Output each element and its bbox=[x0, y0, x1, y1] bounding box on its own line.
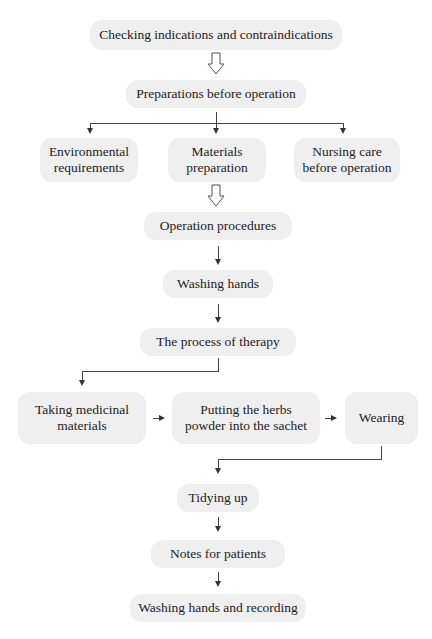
node-label: Environmental bbox=[49, 144, 129, 160]
node-process-of-therapy: The process of therapy bbox=[140, 328, 296, 356]
node-label: powder into the sachet bbox=[185, 418, 307, 434]
node-washing-hands: Washing hands bbox=[163, 270, 273, 298]
node-label: requirements bbox=[54, 160, 124, 176]
node-label: The process of therapy bbox=[156, 334, 279, 350]
connector bbox=[381, 446, 382, 460]
node-environmental-requirements: Environmental requirements bbox=[40, 138, 138, 182]
arrow-right-icon bbox=[331, 415, 337, 421]
node-label: Preparations before operation bbox=[136, 86, 296, 102]
arrow-down-icon bbox=[213, 128, 219, 134]
connector bbox=[218, 459, 382, 460]
connector bbox=[218, 358, 219, 372]
hollow-arrow-down-icon bbox=[207, 52, 225, 76]
arrow-down-icon bbox=[215, 259, 221, 265]
node-label: Nursing care bbox=[312, 144, 381, 160]
hollow-arrow-down-icon bbox=[207, 184, 225, 208]
node-label: Checking indications and contraindicatio… bbox=[99, 27, 333, 43]
node-label: Taking medicinal bbox=[35, 402, 129, 418]
arrow-down-icon bbox=[79, 380, 85, 386]
node-washing-hands-and-recording: Washing hands and recording bbox=[130, 594, 306, 622]
node-tidying-up: Tidying up bbox=[177, 484, 259, 512]
node-taking-medicinal-materials: Taking medicinal materials bbox=[18, 392, 146, 444]
node-nursing-care: Nursing care before operation bbox=[294, 138, 400, 182]
node-materials-preparation: Materials preparation bbox=[168, 138, 266, 182]
arrow-down-icon bbox=[215, 317, 221, 323]
node-label: Notes for patients bbox=[170, 546, 266, 562]
connector bbox=[82, 371, 219, 372]
node-notes-for-patients: Notes for patients bbox=[151, 540, 285, 568]
node-label: Tidying up bbox=[188, 490, 247, 506]
arrow-down-icon bbox=[340, 128, 346, 134]
arrow-down-icon bbox=[215, 468, 221, 474]
node-label: Wearing bbox=[359, 410, 404, 426]
node-label: Materials bbox=[192, 144, 243, 160]
node-operation-procedures: Operation procedures bbox=[144, 212, 292, 240]
arrow-down-icon bbox=[215, 526, 221, 532]
arrow-right-icon bbox=[159, 415, 165, 421]
connector bbox=[218, 246, 219, 260]
node-putting-herbs-powder: Putting the herbs powder into the sachet bbox=[172, 392, 320, 444]
node-label: Putting the herbs bbox=[200, 402, 292, 418]
node-label: materials bbox=[57, 418, 106, 434]
node-label: preparation bbox=[186, 160, 247, 176]
node-label: before operation bbox=[303, 160, 392, 176]
node-label: Washing hands and recording bbox=[138, 600, 298, 616]
node-preparations-before-operation: Preparations before operation bbox=[126, 80, 306, 108]
connector bbox=[218, 304, 219, 318]
node-checking-indications: Checking indications and contraindicatio… bbox=[90, 20, 342, 50]
node-label: Washing hands bbox=[177, 276, 259, 292]
arrow-down-icon bbox=[87, 128, 93, 134]
node-wearing: Wearing bbox=[345, 392, 418, 444]
node-label: Operation procedures bbox=[160, 218, 277, 234]
arrow-down-icon bbox=[215, 581, 221, 587]
